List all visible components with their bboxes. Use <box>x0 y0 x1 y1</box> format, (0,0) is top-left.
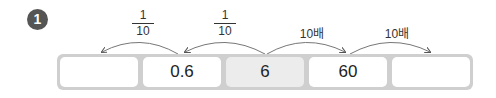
cell-value-center: 6 <box>226 57 304 87</box>
arrow-right-1-icon <box>267 42 345 54</box>
arrow-left-1-icon <box>102 42 178 54</box>
fraction-numerator: 1 <box>210 9 240 22</box>
cell-value: 60 <box>309 57 387 87</box>
arrow-label-4: 10배 <box>377 24 417 41</box>
fraction-denominator: 10 <box>210 25 240 38</box>
blank-cell-right[interactable] <box>392 57 470 87</box>
arrow-left-2-icon <box>185 42 265 54</box>
arrow-right-2-icon <box>350 42 430 54</box>
arrow-label-3: 10배 <box>292 24 332 41</box>
fraction-denominator: 10 <box>128 25 158 38</box>
cell-value: 0.6 <box>143 57 221 87</box>
arrow-label-1: 1 10 <box>128 9 158 38</box>
arrow-label-2: 1 10 <box>210 9 240 38</box>
number-strip: 0.6 6 60 <box>57 54 473 90</box>
fraction-numerator: 1 <box>128 9 158 22</box>
blank-cell-left[interactable] <box>60 57 138 87</box>
